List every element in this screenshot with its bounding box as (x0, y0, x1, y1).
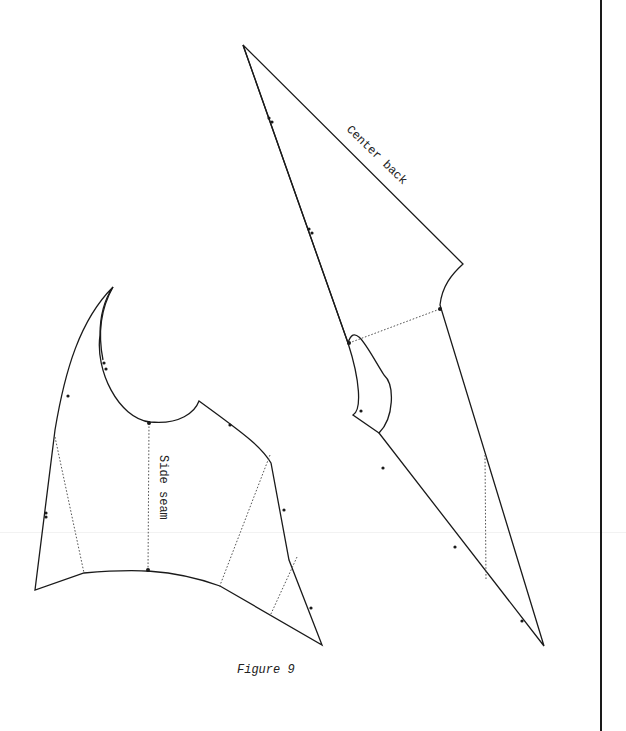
back-notches (267, 116, 523, 622)
notch-icon (104, 367, 107, 370)
side-left-guide (55, 437, 84, 573)
notch-icon (309, 606, 312, 609)
back-hem-guide (485, 455, 486, 580)
pattern-diagram: Center back Side seam Figure 9 (0, 0, 626, 731)
notch-icon (267, 116, 270, 119)
notch-icon (228, 423, 231, 426)
notch-icon (438, 307, 442, 311)
figure-caption: Figure 9 (237, 663, 295, 677)
side-right-guide-2 (270, 557, 297, 616)
back-piece-left-edge (243, 45, 379, 433)
notch-icon (310, 231, 313, 234)
notch-icon (44, 511, 47, 514)
notch-icon (66, 394, 69, 397)
notch-icon (270, 120, 273, 123)
side-right-guide-1 (219, 455, 270, 588)
side-seam-guide (148, 423, 149, 572)
back-waist-guide (349, 309, 440, 343)
notch-icon (520, 619, 523, 622)
notch-icon (307, 227, 310, 230)
notch-icon (147, 421, 151, 425)
notch-icon (381, 466, 384, 469)
notch-icon (102, 361, 105, 364)
notch-icon (359, 409, 362, 412)
notch-icon (347, 341, 351, 345)
notch-icon (282, 508, 285, 511)
side-pattern-piece: Side seam (35, 287, 322, 645)
notch-icon (146, 568, 150, 572)
page-border-line (600, 0, 602, 731)
notch-icon (453, 545, 456, 548)
notch-icon (44, 515, 47, 518)
side-piece-outline (35, 287, 322, 645)
side-seam-label: Side seam (156, 455, 170, 520)
